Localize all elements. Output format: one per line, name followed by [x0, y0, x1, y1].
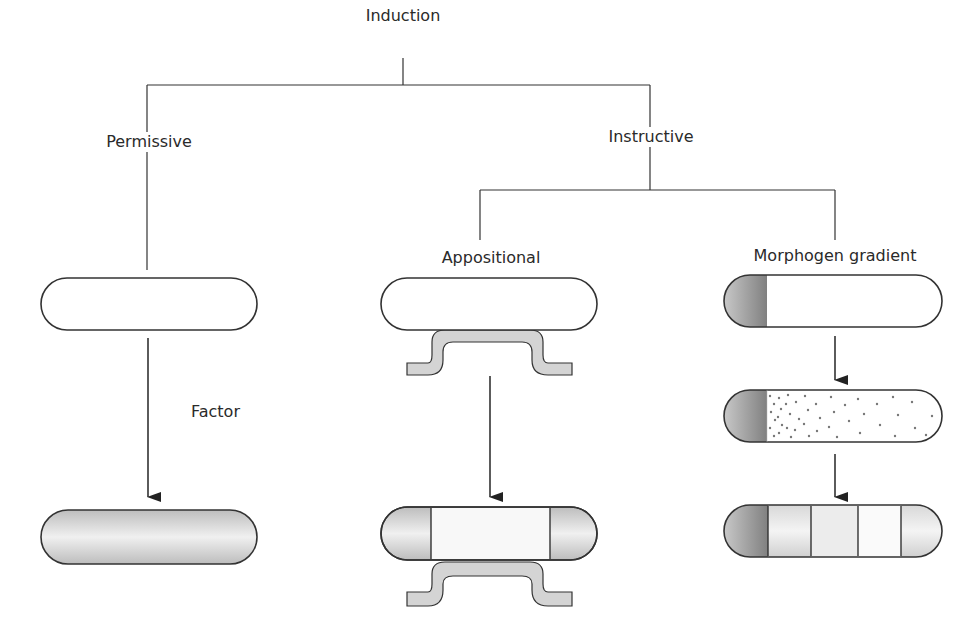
morphogen-column [724, 275, 942, 557]
label-factor: Factor [189, 402, 242, 422]
induction-diagram [0, 0, 975, 628]
cell-uninduced [41, 278, 257, 330]
label-appositional: Appositional [440, 248, 543, 268]
title-induction: Induction [364, 6, 443, 26]
cell-apposed [381, 278, 597, 330]
cell-segmented [724, 505, 942, 557]
label-morphogen-gradient: Morphogen gradient [752, 246, 919, 266]
appositional-column [381, 278, 597, 606]
cell-source [724, 275, 942, 327]
label-permissive: Permissive [104, 132, 194, 152]
label-instructive: Instructive [606, 127, 695, 147]
cell-gradient [724, 390, 942, 442]
contact-tissue-top [407, 330, 572, 375]
cell-induced [41, 510, 257, 564]
cell-appositional-result [381, 507, 597, 560]
contact-tissue-bottom [407, 562, 572, 606]
tree-lines [147, 58, 835, 270]
